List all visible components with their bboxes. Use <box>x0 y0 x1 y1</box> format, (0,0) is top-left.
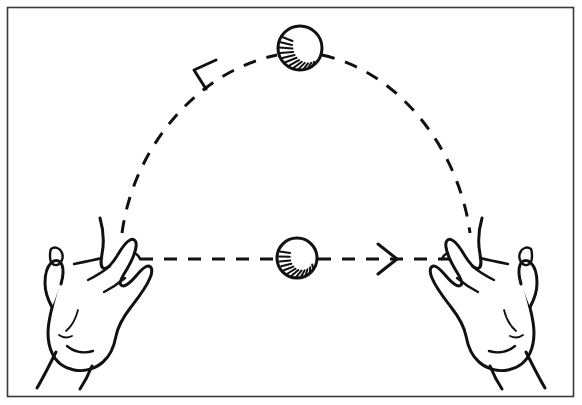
ball-center <box>277 238 317 278</box>
figure-root: Line drawing of two open hands; a dashed… <box>0 0 582 405</box>
ball-top <box>278 26 322 70</box>
ball-toss-diagram <box>0 0 582 405</box>
